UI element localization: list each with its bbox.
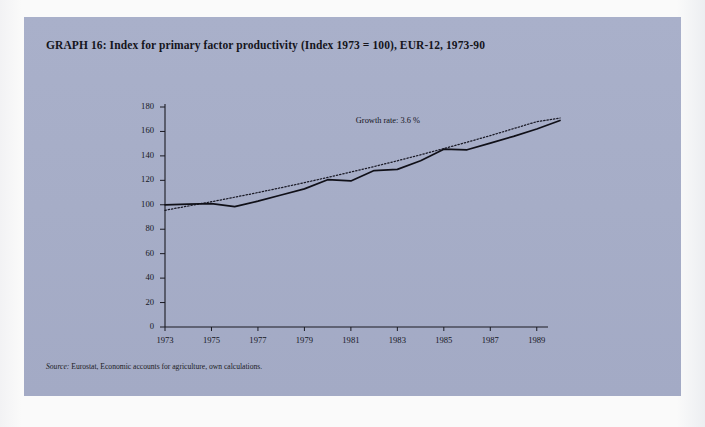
y-tick-label: 160 <box>128 125 154 135</box>
y-tick-label: 80 <box>128 223 154 233</box>
y-tick-label: 100 <box>128 199 154 209</box>
x-tick-label: 1973 <box>148 335 182 345</box>
chart-plot-area: 020406080100120140160180 197319751977197… <box>24 17 681 396</box>
x-tick-label: 1987 <box>473 335 507 345</box>
y-tick-label: 60 <box>128 248 154 258</box>
x-tick-label: 1975 <box>194 335 228 345</box>
y-tick-label: 180 <box>128 101 154 111</box>
y-tick-label: 120 <box>128 174 154 184</box>
x-tick-label: 1979 <box>287 335 321 345</box>
x-tick-label: 1981 <box>334 335 368 345</box>
y-tick-label: 20 <box>128 297 154 307</box>
page-root: GRAPH 16: Index for primary factor produ… <box>0 0 705 427</box>
y-tick-label: 40 <box>128 272 154 282</box>
y-tick-label: 140 <box>128 150 154 160</box>
x-tick-label: 1977 <box>241 335 275 345</box>
chart-axes <box>165 104 548 327</box>
chart-ticks <box>160 107 537 331</box>
x-tick-label: 1985 <box>427 335 461 345</box>
x-tick-label: 1989 <box>520 335 554 345</box>
y-tick-label: 0 <box>128 321 154 331</box>
productivity-line-series <box>165 120 560 206</box>
x-tick-label: 1983 <box>380 335 414 345</box>
trend-line-series <box>165 118 560 210</box>
growth-rate-annotation: Growth rate: 3.6 % <box>356 116 420 125</box>
figure-panel: GRAPH 16: Index for primary factor produ… <box>24 17 681 396</box>
